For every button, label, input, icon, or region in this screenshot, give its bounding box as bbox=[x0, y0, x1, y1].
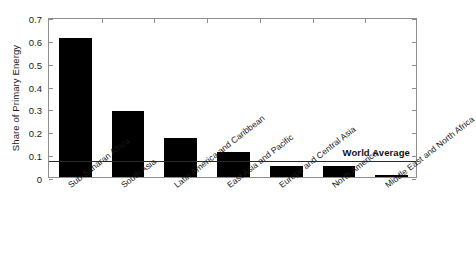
y-axis-tick-right bbox=[412, 65, 416, 66]
y-axis-tick-right bbox=[412, 19, 416, 20]
y-axis-tick-label: 0.7 bbox=[29, 14, 42, 25]
x-axis-tick-top bbox=[313, 19, 314, 23]
x-axis-tick-top bbox=[102, 19, 103, 23]
x-axis-tick-top bbox=[260, 19, 261, 23]
y-axis-tick bbox=[49, 133, 53, 134]
y-axis-tick-label: 0.5 bbox=[29, 59, 42, 70]
y-axis-tick-right bbox=[412, 110, 416, 111]
y-axis-tick-right bbox=[412, 133, 416, 134]
y-axis-tick-right bbox=[412, 42, 416, 43]
y-axis-tick bbox=[49, 110, 53, 111]
bar bbox=[59, 38, 92, 177]
x-axis-tick-top bbox=[207, 19, 208, 23]
y-axis-tick bbox=[49, 65, 53, 66]
y-axis-tick-right bbox=[412, 179, 416, 180]
y-axis-tick-label: 0 bbox=[37, 174, 42, 185]
y-axis-tick-label: 0.1 bbox=[29, 151, 42, 162]
y-axis-tick-label: 0.3 bbox=[29, 105, 42, 116]
y-axis-tick-right bbox=[412, 88, 416, 89]
y-axis-title: Share of Primary Energy bbox=[8, 18, 22, 178]
y-axis-tick bbox=[49, 156, 53, 157]
y-axis-tick bbox=[49, 42, 53, 43]
y-axis-tick-label: 0.4 bbox=[29, 82, 42, 93]
y-axis-tick bbox=[49, 19, 53, 20]
x-axis-tick-top bbox=[365, 19, 366, 23]
y-axis-tick bbox=[49, 179, 53, 180]
x-axis-tick-top bbox=[154, 19, 155, 23]
y-axis-tick bbox=[49, 88, 53, 89]
y-axis-tick-label: 0.2 bbox=[29, 128, 42, 139]
y-axis-tick-label: 0.6 bbox=[29, 36, 42, 47]
